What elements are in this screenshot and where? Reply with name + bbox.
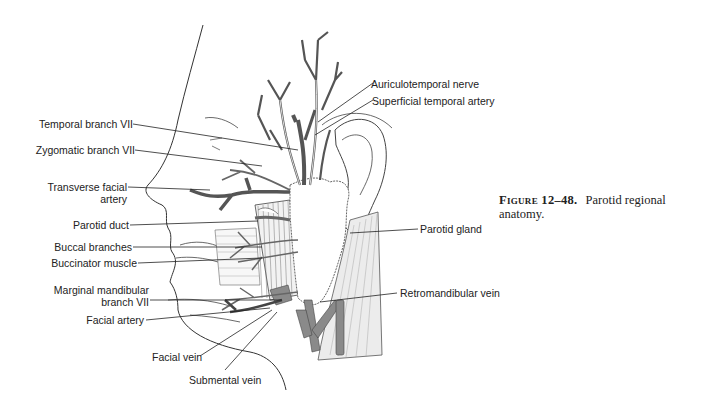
- label-parotid-gland: Parotid gland: [420, 223, 482, 235]
- facial-artery: [225, 300, 282, 312]
- figure-number: Figure 12–48.: [499, 193, 578, 207]
- label-buccal-branches: Buccal branches: [54, 241, 132, 253]
- label-marginal-mandibular-line1: Marginal mandibular: [54, 284, 149, 296]
- label-temporal-branch: Temporal branch VII: [39, 118, 133, 130]
- label-marginal-mandibular-line2: branch VII: [101, 296, 149, 308]
- buccinator-muscle: [215, 228, 260, 285]
- superficial-temporal-artery: [298, 120, 304, 185]
- label-retromandibular-vein: Retromandibular vein: [400, 287, 500, 299]
- label-transverse-facial-artery-line2: artery: [100, 193, 127, 205]
- label-auriculotemporal-nerve: Auriculotemporal nerve: [371, 78, 479, 90]
- label-facial-artery: Facial artery: [86, 314, 144, 326]
- label-transverse-facial-artery-line1: Transverse facial: [47, 181, 127, 193]
- label-buccinator-muscle: Buccinator muscle: [51, 257, 137, 269]
- label-parotid-duct: Parotid duct: [73, 219, 129, 231]
- label-zygomatic-branch: Zygomatic branch VII: [36, 144, 135, 156]
- temporal-nerve-branches: [258, 32, 342, 185]
- label-facial-vein: Facial vein: [152, 351, 202, 363]
- figure-caption: Figure 12–48.Parotid regional anatomy.: [499, 193, 689, 221]
- zygomatic-branches: [222, 160, 290, 190]
- label-superficial-temporal-artery: Superficial temporal artery: [372, 95, 495, 107]
- label-submental-vein: Submental vein: [189, 374, 261, 386]
